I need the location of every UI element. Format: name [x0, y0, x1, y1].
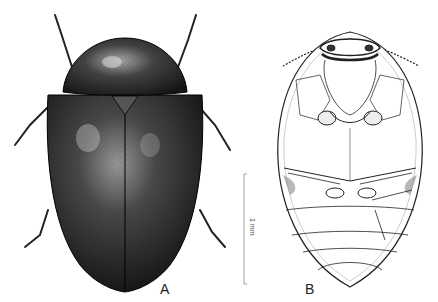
ventral-view-beetle: [278, 32, 422, 287]
panel-b-label: B: [305, 281, 314, 297]
dorsal-view-beetle: [15, 15, 230, 292]
scale-bar: [244, 174, 247, 284]
beetle-figure: [0, 0, 438, 302]
scale-bar-label: 1 mm: [249, 218, 256, 236]
panel-a-label: A: [160, 281, 169, 297]
